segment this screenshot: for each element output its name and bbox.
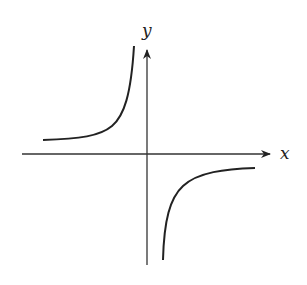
y-axis-label: y: [142, 20, 152, 40]
lower-right-branch: [163, 168, 255, 260]
x-axis-label: x: [280, 143, 290, 163]
hyperbola-graph: [0, 0, 307, 285]
upper-left-branch: [43, 46, 134, 140]
